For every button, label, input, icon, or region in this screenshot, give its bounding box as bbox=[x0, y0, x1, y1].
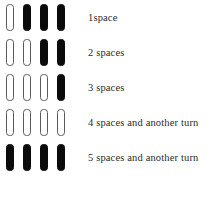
diagram-row: 3 spaces bbox=[0, 70, 217, 105]
bar-empty bbox=[23, 39, 31, 66]
row-label: 1space bbox=[72, 12, 217, 24]
bar-group bbox=[6, 39, 72, 66]
bar-filled bbox=[40, 4, 48, 31]
bar-empty bbox=[6, 74, 14, 101]
row-label: 4 spaces and another turn bbox=[72, 117, 217, 129]
bar-filled bbox=[57, 4, 65, 31]
bar-filled bbox=[23, 144, 31, 171]
bar-empty bbox=[23, 74, 31, 101]
bar-empty bbox=[57, 109, 65, 136]
row-label: 5 spaces and another turn bbox=[72, 152, 217, 164]
bar-filled bbox=[40, 144, 48, 171]
bar-filled bbox=[57, 144, 65, 171]
diagram-row: 5 spaces and another turn bbox=[0, 140, 217, 175]
bar-group bbox=[6, 74, 72, 101]
bar-empty bbox=[40, 74, 48, 101]
row-label: 2 spaces bbox=[72, 47, 217, 59]
diagram-row: 4 spaces and another turn bbox=[0, 105, 217, 140]
diagram-row: 2 spaces bbox=[0, 35, 217, 70]
bar-filled bbox=[23, 4, 31, 31]
bar-filled bbox=[40, 39, 48, 66]
bar-empty bbox=[40, 109, 48, 136]
bar-filled bbox=[6, 144, 14, 171]
bar-filled bbox=[57, 74, 65, 101]
bar-empty bbox=[6, 39, 14, 66]
bar-empty bbox=[23, 109, 31, 136]
bar-empty bbox=[6, 109, 14, 136]
bar-empty bbox=[6, 4, 14, 31]
spaces-diagram: 1space2 spaces3 spaces4 spaces and anoth… bbox=[0, 0, 217, 202]
bar-group bbox=[6, 144, 72, 171]
bar-filled bbox=[57, 39, 65, 66]
row-label: 3 spaces bbox=[72, 82, 217, 94]
bar-group bbox=[6, 109, 72, 136]
diagram-row: 1space bbox=[0, 0, 217, 35]
bar-group bbox=[6, 4, 72, 31]
